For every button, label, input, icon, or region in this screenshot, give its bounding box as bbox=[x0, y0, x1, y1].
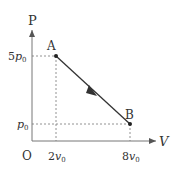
point-a bbox=[54, 54, 58, 58]
tick-8v0: 8v0 bbox=[122, 150, 140, 164]
point-b bbox=[128, 122, 132, 126]
point-b-label: B bbox=[125, 108, 134, 122]
process-line-ab bbox=[56, 56, 130, 124]
x-axis-label: V bbox=[159, 134, 170, 149]
tick-p0: p0 bbox=[17, 118, 29, 132]
point-a-label: A bbox=[46, 39, 56, 53]
y-axis-label: P bbox=[28, 13, 37, 28]
direction-arrow-icon bbox=[86, 85, 97, 96]
tick-5p0: 5p0 bbox=[8, 50, 27, 64]
origin-label: O bbox=[22, 149, 32, 163]
pv-diagram: P V O A B 5p0 p0 2v0 8v0 bbox=[0, 0, 179, 169]
tick-2v0: 2v0 bbox=[48, 150, 66, 164]
